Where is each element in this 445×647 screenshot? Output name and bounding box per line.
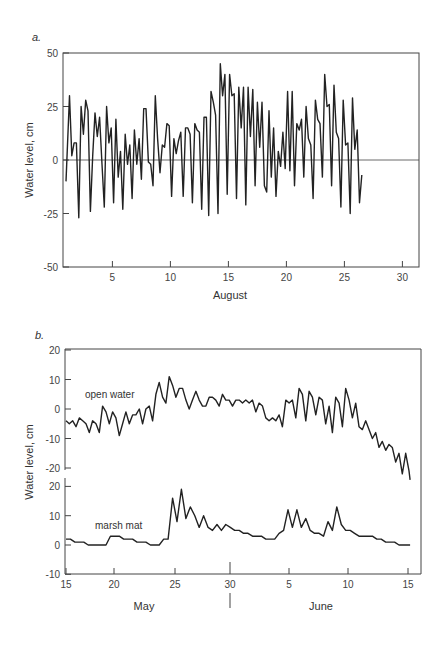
y-tick-label: 25	[47, 102, 59, 113]
panel-b: b. 20100-10-20 20100-10 1520253051015 op…	[23, 329, 421, 612]
x-tick-label: 10	[165, 272, 177, 283]
panel-b-y-title: Water level, cm	[23, 424, 35, 499]
y-tick-label: 20	[49, 345, 61, 356]
x-tick-label: 20	[281, 272, 293, 283]
y-tick-label: -50	[44, 262, 59, 273]
y-tick-label: -10	[46, 569, 61, 580]
month-label-june: June	[309, 600, 333, 612]
y-tick-label: 10	[49, 375, 61, 386]
y-tick-label: 50	[47, 48, 59, 59]
x-tick-label: 30	[397, 272, 409, 283]
panel-a-y-title: Water level, cm	[23, 122, 35, 197]
panel-b-upper-y-axis: 20100-10-20	[46, 345, 71, 474]
x-tick-label: 25	[339, 272, 351, 283]
open-water-label: open water	[85, 389, 135, 400]
x-tick-label: 20	[108, 579, 120, 590]
y-tick-label: 10	[49, 511, 61, 522]
x-tick-label: 30	[224, 579, 236, 590]
x-tick-label: 15	[60, 579, 72, 590]
x-tick-label: 5	[286, 579, 292, 590]
y-tick-label: -25	[44, 209, 59, 220]
y-tick-label: 0	[54, 540, 60, 551]
x-tick-label: 15	[223, 272, 235, 283]
panel-a-y-axis: 50250-25-50	[44, 48, 69, 273]
y-tick-label: 20	[49, 481, 61, 492]
x-tick-label: 15	[402, 579, 414, 590]
marsh-mat-line	[66, 489, 410, 545]
panel-b-lower-y-axis: 20100-10	[46, 481, 71, 580]
panel-a-x-title: August	[213, 289, 247, 301]
figure: a. 50250-25-50 51015202530 August Water …	[0, 0, 445, 647]
panel-a-label: a.	[32, 31, 41, 43]
panel-a-x-axis: 51015202530	[110, 261, 409, 283]
marsh-mat-label: marsh mat	[95, 520, 142, 531]
x-tick-label: 5	[110, 272, 116, 283]
y-tick-label: 0	[54, 404, 60, 415]
y-tick-label: -10	[46, 434, 61, 445]
x-tick-label: 25	[169, 579, 181, 590]
x-tick-label: 10	[342, 579, 354, 590]
panel-a-water-level-line	[66, 64, 362, 218]
y-tick-label: -20	[46, 463, 61, 474]
month-label-may: May	[134, 600, 155, 612]
panel-a: a. 50250-25-50 51015202530 August Water …	[23, 31, 419, 301]
y-tick-label: 0	[52, 155, 58, 166]
panel-b-x-axis: 1520253051015	[60, 562, 414, 590]
panel-b-label: b.	[35, 329, 44, 341]
